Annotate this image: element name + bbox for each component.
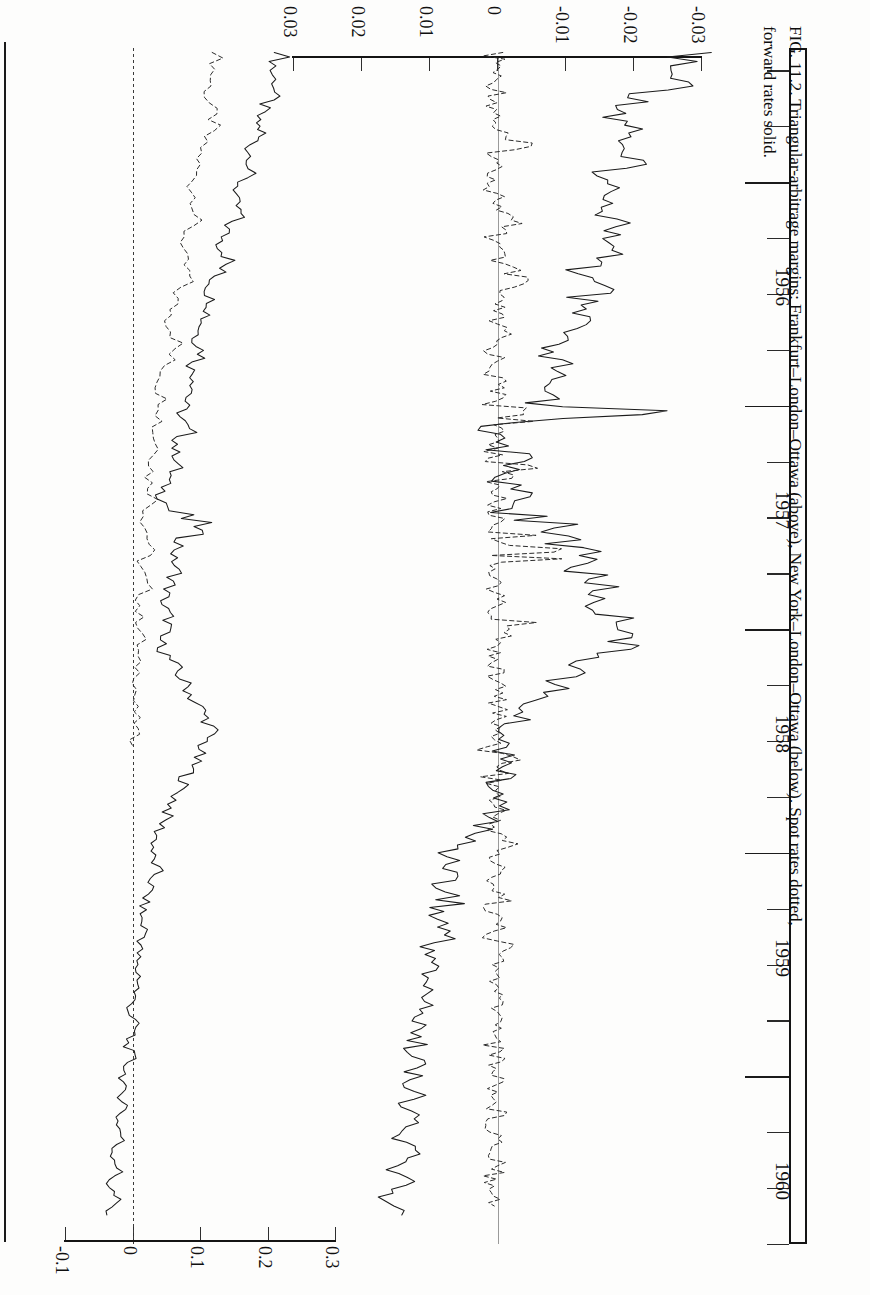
forward-rate-series-path bbox=[378, 52, 711, 1214]
figure-caption: FIG. 11.2. Triangular-arbitrage margins:… bbox=[744, 0, 806, 1295]
lower-chart-series-group bbox=[378, 52, 711, 1214]
figure-caption-line-1: FIG. 11.2. Triangular-arbitrage margins:… bbox=[785, 26, 806, 926]
series-plot-layer bbox=[0, 0, 870, 1295]
upper-chart-series-group bbox=[106, 52, 290, 1214]
spot-rate-series-path bbox=[477, 52, 562, 1206]
spot-rate-series-path bbox=[129, 52, 223, 745]
figure-page: 0.030.020.010-0.01-0.02-0.03 -0.100.10.2… bbox=[0, 0, 870, 1295]
figure-caption-line-2: forward rates solid. bbox=[759, 26, 780, 158]
forward-rate-series-path bbox=[106, 52, 290, 1214]
